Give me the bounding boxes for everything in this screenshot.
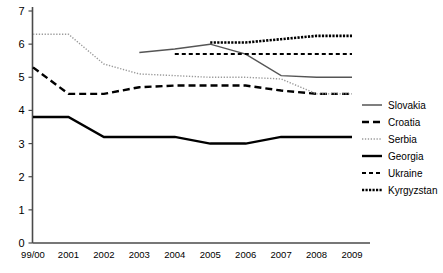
legend-label: Kyrgyzstan xyxy=(388,185,437,196)
y-tick-label: 1 xyxy=(18,204,24,216)
legend-label: Georgia xyxy=(388,151,424,162)
y-tick-label: 7 xyxy=(18,5,24,17)
chart-svg: 01234567 99/0020012002200320042005200620… xyxy=(0,0,443,273)
x-tick-label: 2001 xyxy=(58,249,79,260)
x-axis: 99/0020012002200320042005200620072008200… xyxy=(21,243,370,260)
legend-label: Slovakia xyxy=(388,100,426,111)
series-line-kyrgyzstan xyxy=(210,36,352,43)
series-line-georgia xyxy=(33,117,352,144)
y-axis: 01234567 xyxy=(18,5,32,249)
series-layer xyxy=(33,34,352,143)
series-line-croatia xyxy=(33,67,352,94)
legend-item-ukraine[interactable]: Ukraine xyxy=(362,168,423,179)
y-tick-label: 0 xyxy=(18,237,24,249)
series-line-slovakia xyxy=(139,44,352,77)
legend-item-croatia[interactable]: Croatia xyxy=(362,117,421,128)
legend-label: Ukraine xyxy=(388,168,423,179)
legend-item-kyrgyzstan[interactable]: Kyrgyzstan xyxy=(362,185,437,196)
legend-item-serbia[interactable]: Serbia xyxy=(362,134,417,145)
legend-item-slovakia[interactable]: Slovakia xyxy=(362,100,426,111)
legend-item-georgia[interactable]: Georgia xyxy=(362,151,424,162)
x-tick-label: 2002 xyxy=(93,249,114,260)
x-tick-label: 2004 xyxy=(164,249,185,260)
legend-label: Croatia xyxy=(388,117,421,128)
legend-label: Serbia xyxy=(388,134,417,145)
y-tick-label: 3 xyxy=(18,138,24,150)
x-tick-label: 2007 xyxy=(271,249,292,260)
chart-legend: SlovakiaCroatiaSerbiaGeorgiaUkraineKyrgy… xyxy=(362,100,437,196)
y-tick-label: 5 xyxy=(18,71,24,83)
x-tick-label: 2003 xyxy=(129,249,150,260)
x-tick-label: 2009 xyxy=(341,249,362,260)
y-tick-label: 2 xyxy=(18,171,24,183)
line-chart: 01234567 99/0020012002200320042005200620… xyxy=(0,0,443,273)
x-tick-label: 2008 xyxy=(306,249,327,260)
x-tick-label: 99/00 xyxy=(21,249,45,260)
y-tick-label: 4 xyxy=(18,104,24,116)
y-tick-label: 6 xyxy=(18,38,24,50)
x-tick-label: 2006 xyxy=(235,249,256,260)
x-tick-label: 2005 xyxy=(200,249,221,260)
